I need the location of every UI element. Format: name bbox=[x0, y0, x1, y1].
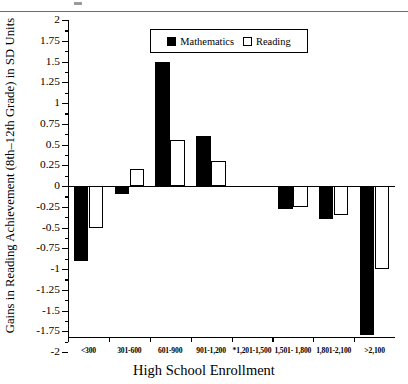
plot-area: 21.751.51.2510.750.50.250-0.25-0.5-0.75-… bbox=[68, 20, 395, 338]
y-tick-label: 1.5 bbox=[46, 56, 60, 67]
x-tick bbox=[232, 337, 233, 342]
y-tick-minor bbox=[65, 238, 69, 239]
x-tick-label: 901-1,200 bbox=[196, 346, 226, 355]
y-tick-label: -1 bbox=[51, 263, 61, 274]
y-tick-major bbox=[62, 82, 68, 83]
y-tick-major bbox=[62, 207, 68, 208]
legend-swatch-reading-icon bbox=[243, 37, 252, 46]
bar-reading bbox=[130, 169, 145, 186]
y-tick-minor bbox=[65, 321, 69, 322]
y-tick-major bbox=[62, 331, 68, 332]
y-tick-major bbox=[62, 124, 68, 125]
bar-reading bbox=[170, 140, 185, 186]
y-tick-label: -1.75 bbox=[36, 326, 60, 337]
legend-item-mathematics: Mathematics bbox=[167, 36, 234, 47]
y-tick-minor bbox=[65, 259, 69, 260]
chart-legend: Mathematics Reading bbox=[150, 29, 308, 53]
y-tick-label: 2 bbox=[54, 14, 60, 25]
y-tick-minor bbox=[65, 30, 69, 31]
x-tick-label: <300 bbox=[81, 346, 96, 355]
y-tick-label: 0.5 bbox=[46, 139, 60, 150]
y-tick-minor bbox=[65, 51, 69, 52]
y-tick-label: 1 bbox=[54, 97, 60, 108]
y-tick-major bbox=[62, 20, 68, 21]
x-tick-label: *1,201-1,500 bbox=[233, 346, 272, 355]
scan-artifact-mark bbox=[74, 2, 82, 5]
x-tick-label: >2,100 bbox=[364, 346, 385, 355]
y-tick-minor bbox=[65, 93, 69, 94]
y-tick-label: 0.75 bbox=[40, 118, 60, 129]
x-tick bbox=[150, 337, 151, 342]
y-tick-major bbox=[62, 165, 68, 166]
y-tick-major bbox=[62, 290, 68, 291]
bar-mathematics bbox=[155, 62, 170, 187]
chart-figure: Gains in Reading Achievement (8th–12th G… bbox=[0, 0, 408, 384]
y-tick-minor bbox=[65, 217, 69, 218]
x-tick bbox=[68, 337, 69, 342]
y-tick-major bbox=[62, 311, 68, 312]
y-tick-label: -1.5 bbox=[42, 305, 60, 316]
x-tick-label: 1,501- 1,800 bbox=[274, 346, 311, 355]
legend-item-reading: Reading bbox=[243, 36, 291, 47]
y-tick-major bbox=[62, 62, 68, 63]
y-tick-minor bbox=[65, 155, 69, 156]
y-tick-minor bbox=[65, 300, 69, 301]
bar-reading bbox=[211, 161, 226, 186]
legend-swatch-mathematics-icon bbox=[167, 37, 176, 46]
bar-mathematics bbox=[115, 186, 130, 194]
y-tick-label: 0 bbox=[54, 180, 60, 191]
y-tick-major bbox=[62, 228, 68, 229]
bar-mathematics bbox=[360, 186, 375, 335]
x-tick-label: 601-900 bbox=[158, 346, 182, 355]
y-tick-label: -0.25 bbox=[36, 201, 60, 212]
y-tick-minor bbox=[65, 176, 69, 177]
bar-mathematics bbox=[74, 186, 89, 261]
y-axis-line bbox=[68, 20, 69, 338]
x-tick bbox=[109, 337, 110, 342]
y-tick-major bbox=[62, 41, 68, 42]
y-tick-major bbox=[62, 103, 68, 104]
y-tick-minor bbox=[65, 72, 69, 73]
y-tick-label: -0.5 bbox=[42, 222, 60, 233]
y-tick-label: 0.25 bbox=[40, 160, 60, 171]
y-tick-label: 1.75 bbox=[40, 35, 60, 46]
y-tick-minor bbox=[65, 196, 69, 197]
bar-reading bbox=[293, 186, 308, 207]
bar-mathematics bbox=[278, 186, 293, 209]
y-tick-label: 1.25 bbox=[40, 77, 60, 88]
x-tick bbox=[191, 337, 192, 342]
y-tick-label: -0.75 bbox=[36, 243, 60, 254]
legend-label-reading: Reading bbox=[256, 36, 291, 47]
x-tick-label: 301-600 bbox=[117, 346, 141, 355]
page-top-rule bbox=[0, 11, 408, 12]
y-tick-major bbox=[62, 186, 68, 187]
y-tick-major bbox=[62, 352, 68, 353]
x-tick bbox=[272, 337, 273, 342]
y-tick-major bbox=[62, 145, 68, 146]
x-axis-title: High School Enrollment bbox=[0, 362, 408, 379]
x-tick-label: 1,801-2,100 bbox=[316, 346, 351, 355]
x-tick bbox=[354, 337, 355, 342]
y-tick-label: -2 bbox=[51, 346, 61, 357]
y-tick-label: -1.25 bbox=[36, 284, 60, 295]
y-tick-major bbox=[62, 248, 68, 249]
y-tick-major bbox=[62, 269, 68, 270]
y-tick-minor bbox=[65, 113, 69, 114]
bar-mathematics bbox=[196, 136, 211, 186]
legend-label-mathematics: Mathematics bbox=[180, 36, 234, 47]
bar-reading bbox=[375, 186, 390, 269]
y-axis-title: Gains in Reading Achievement (8th–12th G… bbox=[3, 6, 18, 346]
bar-reading bbox=[334, 186, 349, 215]
y-tick-minor bbox=[65, 279, 69, 280]
bar-reading bbox=[89, 186, 104, 228]
y-tick-minor bbox=[65, 134, 69, 135]
x-tick bbox=[313, 337, 314, 342]
bar-mathematics bbox=[319, 186, 334, 219]
